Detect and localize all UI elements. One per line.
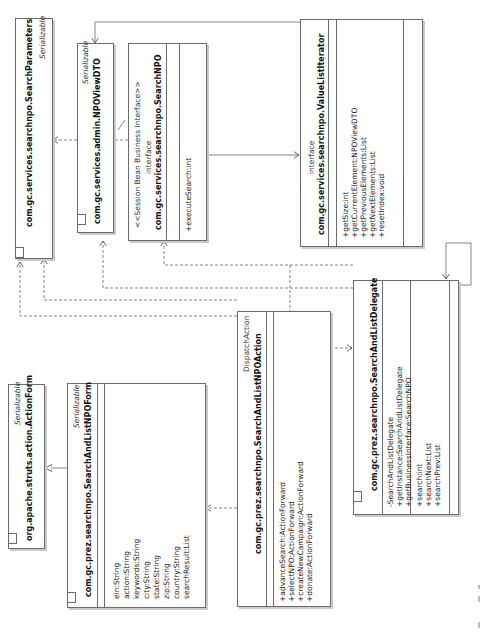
compartment-divider	[273, 312, 274, 606]
compartment-divider	[382, 281, 383, 514]
stereotype-label: <<Session Bean Business Interface>>	[133, 81, 142, 228]
attribute: state:String	[152, 555, 162, 599]
class-search-and-list-npo-action[interactable]: DispatchAction com.gc.prez.searchnpo.Sea…	[237, 311, 331, 607]
operation: +searchPrev:List	[433, 444, 443, 507]
class-name: com.gc.services.searchnpo.ValueListItera…	[317, 34, 326, 235]
attribute: searchResult:List	[182, 535, 192, 599]
operation: +donate:ActionForward	[305, 513, 315, 602]
uml-class-diagram: Serializable com.gc.services.searchnpo.S…	[0, 0, 482, 632]
compartment-divider	[166, 44, 167, 240]
class-name: com.gc.services.admin.NPOViewDTO	[93, 58, 102, 224]
compartment-divider	[336, 20, 337, 246]
operation: +executeSearch:int	[184, 158, 194, 232]
attribute: country:String	[172, 546, 182, 599]
class-name: com.gc.services.searchnpo.SearchNPO	[154, 55, 163, 230]
attribute: zip:String	[162, 563, 172, 599]
stereotype-label: Serializable	[13, 382, 22, 425]
attribute: ein:String	[112, 563, 122, 599]
interface-search-npo[interactable]: <<Session Bean Business Interface>> inte…	[128, 43, 207, 241]
class-name: com.gc.prez.searchnpo.SearchAndListNPOFo…	[84, 382, 93, 597]
class-tab-icon	[353, 491, 362, 502]
scan-artifact	[478, 596, 480, 602]
attribute: action:String	[122, 551, 132, 599]
compartment-divider	[97, 384, 98, 607]
interface-keyword: interface	[307, 141, 316, 174]
operation: +resetIndex:void	[377, 174, 387, 238]
class-search-and-list-npo-form[interactable]: Serializable com.gc.prez.searchnpo.Searc…	[67, 383, 206, 608]
class-name: com.gc.prez.searchnpo.SearchAndListNPOAc…	[254, 333, 263, 554]
class-name: com.gc.services.searchnpo.SearchParamete…	[25, 19, 34, 227]
stereotype-label: Serializable	[38, 16, 47, 59]
class-npo-view-dto[interactable]: Serializable com.gc.services.admin.NPOVi…	[77, 43, 114, 233]
class-name: org.apache.struts.action.ActionForm	[25, 375, 34, 541]
stereotype-label: DispatchAction	[242, 316, 251, 372]
compartment-divider	[403, 20, 404, 246]
scan-artifact	[478, 622, 480, 628]
stereotype-label: Serializable	[81, 41, 90, 84]
class-tab-icon	[67, 592, 76, 603]
class-search-parameters[interactable]: Serializable com.gc.services.searchnpo.S…	[15, 18, 53, 259]
compartment-divider	[328, 20, 329, 246]
class-action-form[interactable]: Serializable org.apache.struts.action.Ac…	[8, 384, 45, 549]
interface-keyword: interface	[144, 141, 153, 174]
class-tab-icon	[8, 533, 17, 544]
class-tab-icon	[15, 247, 24, 258]
compartment-divider	[266, 312, 267, 606]
class-search-and-list-delegate[interactable]: com.gc.prez.searchnpo.SearchAndListDeleg…	[353, 280, 459, 515]
stereotype-label: Serializable	[72, 385, 81, 428]
class-name: com.gc.prez.searchnpo.SearchAndListDeleg…	[370, 278, 379, 491]
compartment-divider	[449, 281, 450, 514]
attribute: city:String	[142, 561, 152, 599]
scan-artifact	[478, 585, 480, 589]
operation: +getBusinessInterface:SearchNPO	[404, 377, 414, 507]
compartment-divider	[179, 44, 180, 240]
interface-value-list-iterator[interactable]: interface com.gc.services.searchnpo.Valu…	[300, 19, 423, 247]
class-tab-icon	[77, 214, 86, 225]
compartment-divider	[104, 384, 105, 607]
attribute: keywords:String	[132, 539, 142, 599]
